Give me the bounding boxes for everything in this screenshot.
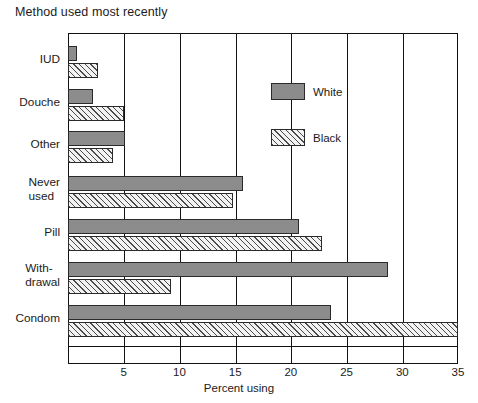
bar-black <box>68 148 113 163</box>
bar-white <box>68 131 125 146</box>
bar-white <box>68 176 243 191</box>
category-label: IUD <box>40 53 60 67</box>
x-tick-label: 10 <box>173 366 186 378</box>
bar-black <box>68 63 98 78</box>
legend-swatch-black <box>271 129 305 146</box>
x-axis-title: Percent using <box>0 382 478 394</box>
category-label: Douche <box>19 96 60 110</box>
bar-black <box>68 106 124 121</box>
category-label: Pill <box>44 226 60 240</box>
x-tick-label: 15 <box>229 366 242 378</box>
bar-white <box>68 89 93 104</box>
tick-mark <box>403 347 404 363</box>
tick-mark <box>180 347 181 363</box>
tick-mark <box>291 347 292 363</box>
bar-chart: Method used most recently IUDDoucheOther… <box>0 0 478 403</box>
bar-white <box>68 305 331 320</box>
x-tick-label: 5 <box>121 366 127 378</box>
category-label: With-drawal <box>25 262 60 289</box>
category-label: Condom <box>15 312 60 326</box>
bar-black <box>68 279 171 294</box>
x-tick-label: 20 <box>284 366 297 378</box>
gridline <box>347 34 348 346</box>
gridline <box>291 34 292 346</box>
x-tick-label: 35 <box>452 366 465 378</box>
bar-white <box>68 262 388 277</box>
x-tick-label: 30 <box>396 366 409 378</box>
legend-swatch-white <box>271 83 305 100</box>
legend-label-black: Black <box>313 132 341 144</box>
bar-black <box>68 236 322 251</box>
x-tick-label: 25 <box>340 366 353 378</box>
legend-label-white: White <box>313 86 342 98</box>
tick-mark <box>124 347 125 363</box>
x-axis-strip <box>68 347 458 364</box>
gridline <box>403 34 404 346</box>
chart-title: Method used most recently <box>15 5 168 19</box>
tick-mark <box>236 347 237 363</box>
tick-mark <box>347 347 348 363</box>
bar-white <box>68 219 299 234</box>
bar-white <box>68 46 77 61</box>
bar-black <box>68 322 458 337</box>
bar-black <box>68 193 233 208</box>
category-label: Other <box>30 138 60 152</box>
category-label: Neverused <box>29 176 60 203</box>
